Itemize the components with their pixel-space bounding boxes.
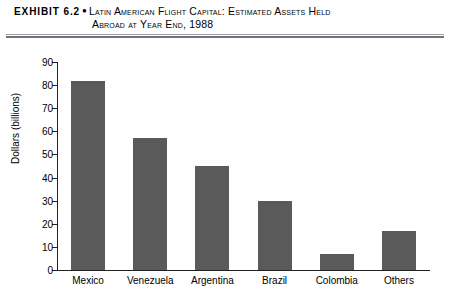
x-axis-line [57,270,430,271]
y-tick-label: 30 [42,195,53,206]
y-tick-label: 50 [42,149,53,160]
x-axis-label-colombia: Colombia [316,275,358,286]
y-tick-label: 40 [42,172,53,183]
y-axis-title: Dollars (billions) [10,150,21,164]
y-tick-label: 0 [47,265,53,276]
exhibit-header: EXHIBIT 6.2●Latin American Flight Capita… [0,0,450,31]
bar-venezuela[interactable] [133,138,167,270]
bar-mexico[interactable] [71,81,105,271]
x-axis-label-venezuela: Venezuela [127,275,174,286]
x-axis-label-mexico: Mexico [72,275,104,286]
header-divider-rule [6,34,444,38]
bar-argentina[interactable] [195,166,229,270]
exhibit-title-line-1: EXHIBIT 6.2●Latin American Flight Capita… [14,4,440,18]
y-tick-label: 90 [42,57,53,68]
y-tick-label: 80 [42,80,53,91]
bullet-separator-icon: ● [80,6,89,15]
y-tick-label: 10 [42,241,53,252]
y-tick-label: 70 [42,103,53,114]
x-axis-label-argentina: Argentina [191,275,234,286]
plot-area: 0102030405060708090 MexicoVenezuelaArgen… [57,62,430,271]
bar-colombia[interactable] [320,254,354,270]
exhibit-title-text-2: Abroad at Year End, 1988 [92,18,213,30]
exhibit-title-line-2: Abroad at Year End, 1988 [14,18,440,31]
bar-chart: Dollars (billions) 0102030405060708090 M… [0,48,450,302]
y-axis-title-text: Dollars (billions) [10,93,21,164]
x-axis-label-others: Others [384,275,414,286]
exhibit-number-label: EXHIBIT 6.2 [14,6,80,17]
y-axis-line [57,62,58,271]
bar-brazil[interactable] [258,201,292,270]
bar-others[interactable] [382,231,416,270]
x-axis-label-brazil: Brazil [262,275,287,286]
y-tick-label: 60 [42,126,53,137]
y-tick-label: 20 [42,218,53,229]
exhibit-title-text-1: Latin American Flight Capital: Estimated… [89,5,330,17]
